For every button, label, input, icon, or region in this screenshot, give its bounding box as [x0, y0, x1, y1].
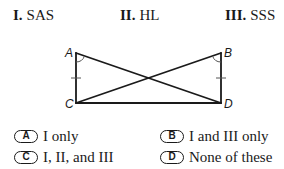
option-a[interactable]: A I only: [14, 127, 78, 145]
vertex-label-d: D: [224, 97, 233, 111]
option-c[interactable]: C I, II, and III: [14, 148, 113, 166]
vertex-label-b: B: [224, 46, 232, 60]
vertex-label-c: C: [65, 97, 74, 111]
option-b[interactable]: B I and III only: [160, 127, 269, 145]
option-letter-badge: D: [160, 151, 184, 164]
option-letter-badge: C: [14, 151, 38, 164]
option-text: None of these: [189, 148, 272, 166]
option-text: I and III only: [189, 127, 269, 145]
option-text: I only: [43, 127, 78, 145]
option-text: I, II, and III: [43, 148, 113, 166]
angle-mark-b: [213, 56, 222, 62]
angle-mark-a: [76, 56, 85, 62]
option-letter-badge: B: [160, 130, 184, 143]
vertex-label-a: A: [64, 46, 73, 60]
option-letter-badge: A: [14, 130, 38, 143]
option-d[interactable]: D None of these: [160, 148, 272, 166]
